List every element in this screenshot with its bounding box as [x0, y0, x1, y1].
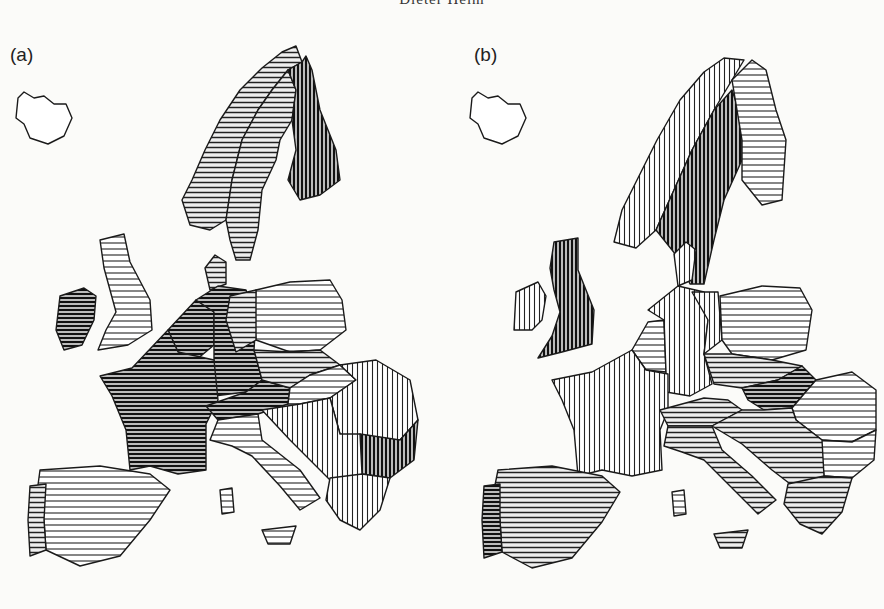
finland [288, 56, 340, 200]
portugal [28, 484, 46, 556]
sardinia [672, 490, 686, 516]
ireland [56, 288, 96, 350]
sicily [262, 526, 296, 544]
sardinia [220, 488, 234, 514]
uk [98, 234, 152, 350]
greece-albania [784, 476, 852, 534]
poland [720, 286, 812, 360]
denmark [205, 255, 226, 290]
poland [254, 280, 346, 352]
iceland [16, 92, 72, 144]
spain [36, 466, 170, 566]
iceland [470, 92, 526, 144]
map-a [0, 0, 442, 609]
portugal [482, 484, 502, 558]
spain [492, 466, 620, 568]
ireland [514, 282, 546, 330]
map-b [442, 0, 884, 609]
sicily [714, 530, 748, 548]
uk [538, 238, 594, 358]
finland [732, 60, 786, 205]
greece-albania [326, 474, 390, 530]
